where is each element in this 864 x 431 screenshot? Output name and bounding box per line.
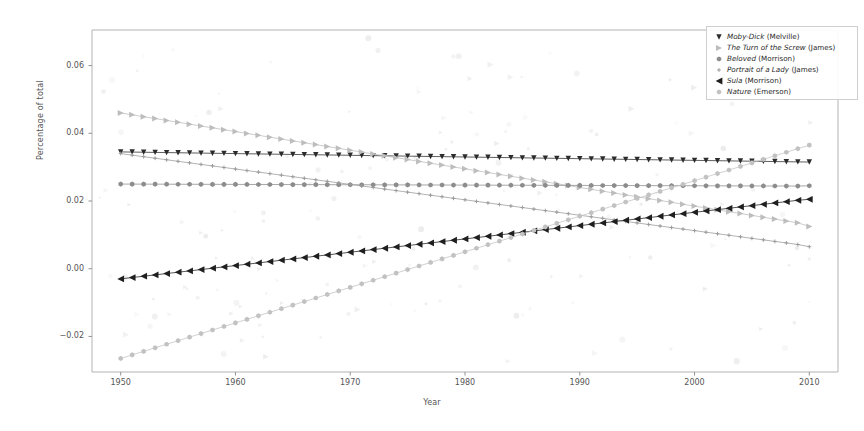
chart-figure: Percentage of total Year 195019601970198… xyxy=(0,0,864,431)
x-axis-label: Year xyxy=(0,398,864,407)
x-tick-label: 1980 xyxy=(445,378,485,387)
series-5 xyxy=(118,143,811,362)
y-axis-label: Percentage of total xyxy=(36,80,45,160)
legend-item-1[interactable]: The Turn of the Screw (James) xyxy=(711,42,853,53)
x-tick-label: 2010 xyxy=(789,378,829,387)
legend-item-label: Portrait of a Lady (James) xyxy=(727,64,819,75)
legend-item-5[interactable]: Nature (Emerson) xyxy=(711,86,853,97)
legend-item-label: The Turn of the Screw (James) xyxy=(727,42,835,53)
x-tick-label: 2000 xyxy=(675,378,715,387)
y-tick-label: 0.00 xyxy=(44,264,84,273)
x-tick-label: 1950 xyxy=(101,378,141,387)
x-tick-label: 1960 xyxy=(215,378,255,387)
series-3 xyxy=(119,152,811,249)
legend-item-label: Nature (Emerson) xyxy=(727,86,791,97)
axis-ticks xyxy=(89,66,810,376)
legend-item-label: Beloved (Morrison) xyxy=(727,53,795,64)
x-tick-label: 1990 xyxy=(560,378,600,387)
y-tick-label: −0.02 xyxy=(44,331,84,340)
legend-item-4[interactable]: Sula (Morrison) xyxy=(711,75,853,86)
legend-marker-icon xyxy=(711,43,727,53)
legend-item-label: Sula (Morrison) xyxy=(727,75,782,86)
legend-marker-icon xyxy=(711,76,727,86)
series-4 xyxy=(117,196,812,282)
legend-marker-icon xyxy=(711,54,727,64)
y-tick-label: 0.04 xyxy=(44,128,84,137)
series-2 xyxy=(118,181,811,188)
legend-item-2[interactable]: Beloved (Morrison) xyxy=(711,53,853,64)
legend-item-label: Moby-Dick (Melville) xyxy=(727,31,800,42)
x-tick-label: 1970 xyxy=(330,378,370,387)
series-0 xyxy=(118,149,812,165)
legend-item-0[interactable]: Moby-Dick (Melville) xyxy=(711,31,853,42)
legend-marker-icon xyxy=(711,32,727,42)
y-tick-label: 0.02 xyxy=(44,196,84,205)
y-tick-label: 0.06 xyxy=(44,61,84,70)
legend-marker-icon xyxy=(711,65,727,75)
legend-item-3[interactable]: Portrait of a Lady (James) xyxy=(711,64,853,75)
chart-legend: Moby-Dick (Melville)The Turn of the Scre… xyxy=(706,26,858,100)
series-layer xyxy=(117,110,812,361)
legend-marker-icon xyxy=(711,87,727,97)
